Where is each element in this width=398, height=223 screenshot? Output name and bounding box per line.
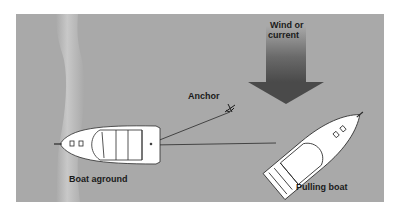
anchor-rode [152, 112, 230, 143]
pulling-boat-label: Pulling boat [296, 182, 348, 192]
tow-line [152, 143, 276, 145]
boat-aground-label: Boat aground [69, 174, 128, 184]
diagram-panel: Wind or current Anchor Boat aground Pull… [16, 14, 384, 202]
wind-label-line1: Wind or [270, 20, 303, 30]
wind-label-line2: current [268, 30, 299, 40]
anchor-label: Anchor [188, 91, 220, 101]
anchor-icon [225, 104, 235, 112]
